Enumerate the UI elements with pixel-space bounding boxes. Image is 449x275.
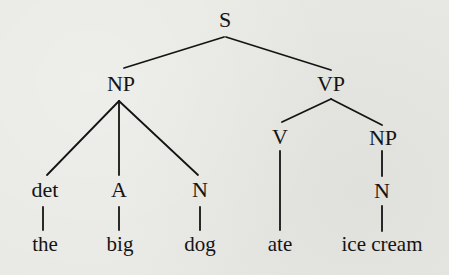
word-big: big: [107, 234, 134, 255]
node-np-subject: NP: [107, 73, 135, 95]
node-v: V: [272, 126, 288, 148]
edge-vp-v: [282, 99, 331, 122]
edge-s-vp: [226, 37, 331, 70]
edge-s-np: [124, 37, 224, 68]
node-n-object: N: [374, 180, 390, 202]
node-n-subject: N: [192, 179, 208, 201]
node-det: det: [32, 179, 59, 201]
word-ate: ate: [268, 234, 292, 255]
syntax-tree-diagram: S NP VP det A N V NP N the big dog ate i…: [0, 0, 449, 275]
node-s: S: [219, 9, 231, 31]
word-ice-cream: ice cream: [341, 234, 422, 255]
node-np-object: NP: [369, 127, 397, 149]
word-the: the: [32, 234, 58, 255]
edge-vp-np: [331, 99, 382, 125]
node-vp: VP: [317, 73, 345, 95]
edge-np-det: [47, 101, 119, 175]
node-a: A: [111, 179, 127, 201]
edge-np-n: [119, 101, 198, 175]
word-dog: dog: [184, 234, 216, 255]
